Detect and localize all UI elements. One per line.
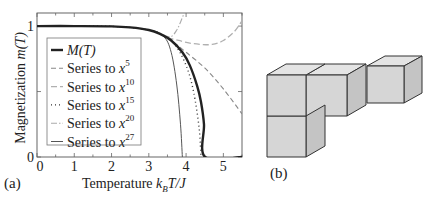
panel-a-label: (a)	[4, 175, 21, 192]
x-axis-label: Temperature kBT/J	[82, 176, 186, 194]
x-tick-label: 0	[37, 159, 44, 174]
x-tick-label: 3	[145, 159, 152, 174]
panel-a-chart: 012345 01 M(T)Series to x5Series to x10S…	[4, 13, 242, 194]
cube-right-raised	[367, 56, 422, 103]
cube-top-middle	[306, 64, 366, 116]
x-tick-label: 4	[183, 159, 190, 174]
figure: 012345 01 M(T)Series to x5Series to x10S…	[0, 0, 435, 198]
y-tick-label: 1	[27, 19, 34, 34]
legend-label: Series to x10	[67, 77, 135, 95]
legend-label: Series to x5	[67, 58, 130, 76]
y-axis-label: Magnetization m(T)	[13, 32, 29, 144]
legend-label: Series to x27	[67, 132, 135, 150]
y-tick-labels: 01	[27, 19, 34, 165]
x-tick-labels: 012345	[37, 159, 227, 174]
legend-label: M(T)	[66, 43, 96, 59]
legend-label: Series to x15	[67, 95, 135, 113]
x-tick-label: 5	[220, 159, 227, 174]
y-tick-label: 0	[27, 150, 34, 165]
legend: M(T)Series to x5Series to x10Series to x…	[47, 38, 141, 150]
x-tick-label: 1	[71, 159, 78, 174]
panel-b-label: (b)	[270, 165, 288, 182]
panel-b-cubes	[267, 56, 422, 157]
x-tick-label: 2	[108, 159, 115, 174]
legend-label: Series to x20	[67, 113, 135, 131]
